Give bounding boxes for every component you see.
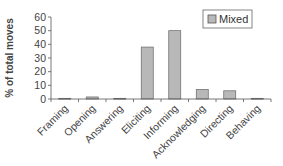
- legend: Mixed: [203, 10, 252, 28]
- bar-eliciting: [141, 47, 153, 99]
- y-tick-label: 30: [34, 52, 46, 64]
- y-tick-label: 20: [34, 65, 46, 77]
- y-tick-label: 50: [34, 24, 46, 36]
- legend-label: Mixed: [219, 13, 248, 25]
- y-tick-label: 60: [34, 11, 46, 23]
- y-tick-label: 10: [34, 79, 46, 91]
- bar-chart: 0102030405060 FramingOpeningAnsweringEli…: [0, 0, 283, 166]
- legend-swatch: [208, 15, 216, 23]
- x-axis: FramingOpeningAnsweringElicitingInformin…: [34, 99, 271, 160]
- y-tick-label: 0: [40, 93, 46, 105]
- y-axis: 0102030405060: [34, 11, 51, 105]
- y-axis-label: % of total moves: [4, 18, 15, 98]
- bar-informing: [169, 31, 181, 99]
- bars: [59, 31, 264, 99]
- bar-acknowledging: [196, 89, 208, 99]
- y-tick-label: 40: [34, 38, 46, 50]
- bar-directing: [224, 91, 236, 99]
